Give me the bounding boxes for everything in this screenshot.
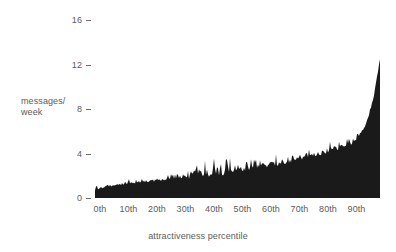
area-chart-plot — [0, 0, 396, 252]
area-fill-path — [95, 59, 380, 198]
chart-screenshot: messages/ week 1612840 0th10th20th30th40… — [0, 0, 396, 252]
